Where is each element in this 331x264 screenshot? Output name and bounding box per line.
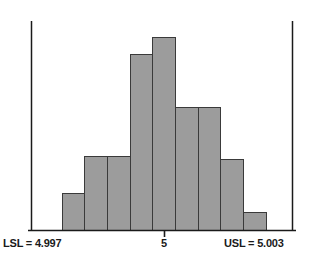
histogram-bar [62, 193, 85, 230]
histogram-bar [221, 159, 244, 230]
histogram-chart: LSL = 4.997 USL = 5.003 5 [0, 0, 331, 264]
histogram-bar [175, 107, 198, 230]
x-axis-tick-label-center: 5 [150, 238, 178, 249]
histogram-bar [130, 54, 153, 230]
histogram-plot-area [0, 0, 331, 264]
histogram-bar [153, 37, 176, 230]
lsl-label: LSL = 4.997 [3, 238, 61, 249]
histogram-bar [85, 156, 108, 230]
usl-label: USL = 5.003 [224, 238, 284, 249]
histogram-bar [198, 107, 221, 230]
histogram-bar [107, 156, 130, 230]
histogram-bar [243, 212, 266, 230]
histogram-bars [62, 37, 266, 230]
